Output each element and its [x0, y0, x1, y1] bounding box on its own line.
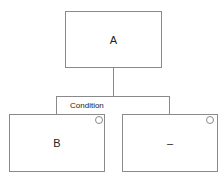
- connector-horizontal: [56, 96, 170, 97]
- connector-right-branch: [169, 96, 170, 114]
- node-root[interactable]: A: [65, 11, 162, 68]
- node-child-dash-label: –: [167, 137, 173, 149]
- node-child-dash-circle-icon[interactable]: [206, 116, 214, 124]
- connector-left-branch: [56, 96, 57, 114]
- node-child-b[interactable]: B: [9, 114, 105, 172]
- node-child-b-circle-icon[interactable]: [95, 116, 103, 124]
- node-child-dash[interactable]: –: [122, 114, 218, 172]
- connector-root-down: [113, 67, 114, 96]
- edge-condition-label: Condition: [70, 101, 104, 110]
- node-root-label: A: [110, 34, 117, 46]
- node-child-b-label: B: [53, 137, 60, 149]
